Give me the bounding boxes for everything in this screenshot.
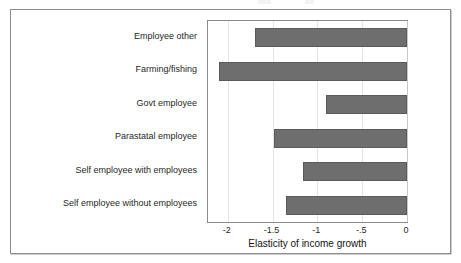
bar-self-employee-without-employees[interactable] <box>286 196 407 215</box>
bar-row <box>208 122 407 156</box>
bar-employee-other[interactable] <box>255 28 407 47</box>
y-axis-category-labels: Employee otherFarming/fishingGovt employ… <box>11 20 203 223</box>
bar-farming-fishing[interactable] <box>219 62 407 81</box>
bar-self-employee-with-employees[interactable] <box>303 162 407 181</box>
y-axis-label-2: Govt employee <box>136 98 197 109</box>
bar-row <box>208 88 407 122</box>
cropped-title-residue-right <box>305 0 314 4</box>
x-tick-label-3: -.5 <box>356 225 367 236</box>
bar-row <box>208 55 407 89</box>
y-axis-label-4: Self employee with employees <box>75 165 197 176</box>
y-axis-label-1: Farming/fishing <box>135 64 197 75</box>
bar-parastatal-employee[interactable] <box>274 129 407 148</box>
y-axis-label-3: Parastatal employee <box>115 131 197 142</box>
bar-row <box>208 189 407 223</box>
bar-row <box>208 155 407 189</box>
x-tick-label-4: 0 <box>403 225 408 236</box>
x-axis-title: Elasticity of income growth <box>207 238 408 250</box>
cropped-title-residue-left <box>258 0 271 4</box>
y-axis-label-0: Employee other <box>134 31 197 42</box>
plot-area <box>207 20 408 223</box>
figure-frame: Employee otherFarming/fishingGovt employ… <box>10 9 451 254</box>
bar-govt-employee[interactable] <box>326 95 407 114</box>
x-tick-label-0: -2 <box>223 225 231 236</box>
gridline-x-4 <box>407 21 408 222</box>
y-axis-label-5: Self employee without employees <box>63 198 197 209</box>
x-axis-tick-labels: -2-1.5-1-.50 <box>207 225 408 239</box>
bar-row <box>208 21 407 55</box>
x-tick-label-2: -1 <box>312 225 320 236</box>
x-tick-label-1: -1.5 <box>264 225 280 236</box>
